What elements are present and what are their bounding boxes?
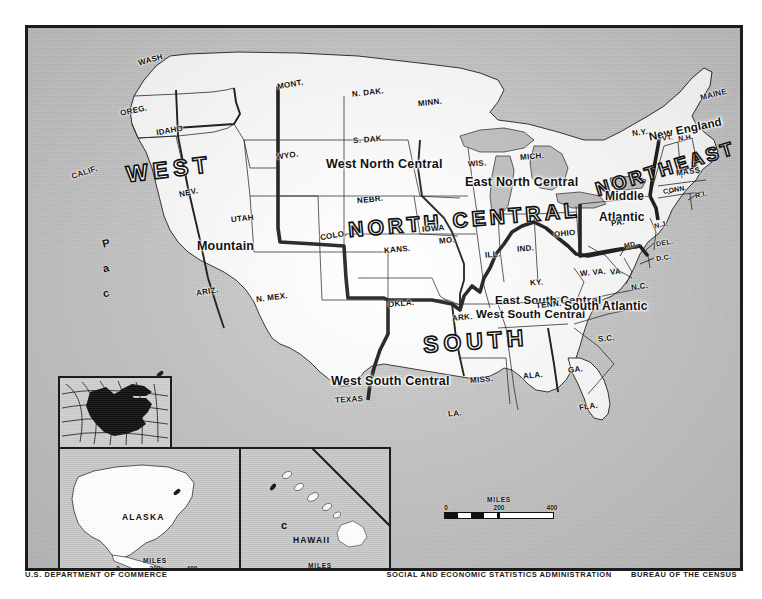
- main-scale-graphic: [444, 512, 554, 519]
- main-scale-tick-200: 200: [494, 504, 505, 511]
- hawaii-scale-tick-200: 200: [352, 570, 363, 571]
- hawaii-shape: [241, 449, 389, 571]
- alaska-inset: ALASKA MILES 0 200 400: [58, 447, 243, 571]
- pacific-letter-3: c: [89, 278, 124, 309]
- alaska-shape: [60, 449, 241, 571]
- main-map-frame: WEST NORTH CENTRAL SOUTH NORTHEAST P a c…: [25, 25, 743, 571]
- alaska-scale-title: MILES: [116, 557, 194, 564]
- hawaii-inset: c HAWAII MILES 0 100 200: [239, 447, 391, 571]
- main-scale-tick-400: 400: [547, 504, 558, 511]
- credit-bureau: BUREAU OF THE CENSUS: [631, 570, 737, 579]
- globe-locator-inset: [58, 376, 172, 450]
- hawaii-scale-tick-0: 0: [281, 570, 285, 571]
- hawaii-scale-tick-100: 100: [315, 570, 326, 571]
- hawaii-scale-bar: MILES 0 100 200: [281, 562, 359, 571]
- division-label-pacific: P a c: [91, 231, 121, 306]
- credit-agency: SOCIAL AND ECONOMIC STATISTICS ADMINISTR…: [386, 570, 611, 579]
- hawaii-scale-title: MILES: [281, 562, 359, 569]
- florida-peninsula: [568, 358, 610, 420]
- credit-department: U.S. DEPARTMENT OF COMMERCE: [25, 570, 167, 579]
- main-scale-title: MILES: [444, 496, 554, 503]
- globe-graticule: [60, 378, 170, 448]
- main-scale-bar: MILES 0 200 400: [444, 496, 554, 519]
- hawaii-scale-ticks: 0 100 200: [281, 570, 359, 571]
- conus-landmass: [130, 52, 718, 392]
- alaska-scale-bar: MILES 0 200 400: [116, 557, 194, 571]
- credit-agency-bureau: SOCIAL AND ECONOMIC STATISTICS ADMINISTR…: [386, 570, 737, 579]
- main-scale-tick-0: 0: [444, 504, 448, 511]
- main-scale-ticks: 0 200 400: [444, 504, 554, 512]
- map-page: WEST NORTH CENTRAL SOUTH NORTHEAST P a c…: [0, 0, 762, 599]
- alaska-scale-tick-400: 400: [187, 565, 198, 571]
